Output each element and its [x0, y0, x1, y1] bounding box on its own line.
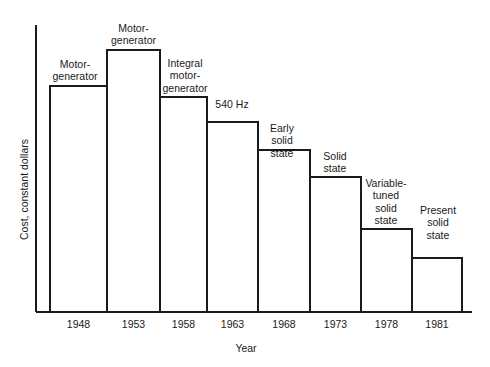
bar-1958: [160, 97, 207, 312]
bar-chart: Motor- generator Motor- generator Integr…: [0, 0, 490, 367]
y-axis-title: Cost, constant dollars: [18, 139, 30, 240]
bar-1968: [258, 150, 310, 312]
x-tick-label-7: 1981: [415, 318, 459, 330]
bar-1953: [107, 50, 160, 312]
x-tick-label-6: 1978: [365, 318, 409, 330]
bar-1963: [207, 122, 258, 312]
x-tick-label-2: 1958: [162, 318, 206, 330]
x-tick-label-1: 1953: [112, 318, 156, 330]
bar-1973: [310, 177, 361, 312]
x-axis-title: Year: [196, 342, 296, 354]
x-tick-label-3: 1963: [211, 318, 255, 330]
bar-1981: [412, 258, 462, 312]
bar-1948: [50, 86, 107, 312]
bars-group: [50, 50, 462, 312]
x-tick-label-0: 1948: [57, 318, 101, 330]
x-tick-label-4: 1968: [262, 318, 306, 330]
bar-1978: [361, 229, 412, 312]
x-tick-label-5: 1973: [314, 318, 358, 330]
chart-canvas: [0, 0, 490, 367]
